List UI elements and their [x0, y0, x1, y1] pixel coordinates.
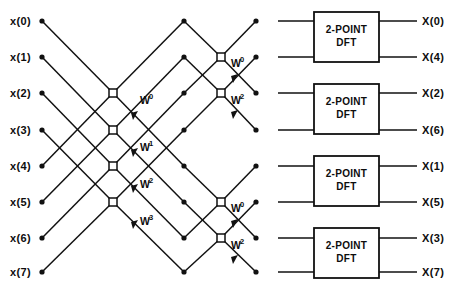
node-dot — [253, 269, 258, 274]
node-square — [109, 162, 117, 170]
node-square — [109, 198, 117, 206]
twiddle-label-exponent: 3 — [149, 213, 153, 222]
twiddle-label-exponent: 1 — [149, 139, 153, 148]
dft-box-label-line2: DFT — [336, 181, 356, 192]
node-square — [109, 126, 117, 134]
stage1-edges — [42, 21, 184, 272]
node-dot — [39, 163, 44, 168]
input-labels: x(0) x(1) x(2) x(3) x(4) x(5) x(6) x(7) — [10, 15, 31, 278]
dft-block-3[interactable]: 2-POINT DFT — [278, 156, 417, 206]
twiddle-label-exponent: 0 — [240, 200, 244, 209]
input-label-x0: x(0) — [10, 15, 31, 27]
node-dot — [39, 235, 44, 240]
fft-diagram-canvas: 2-POINT DFT 2-POINT DFT 2-POINT — [0, 0, 455, 286]
arrowhead-icon — [231, 255, 238, 264]
dft-block-1[interactable]: 2-POINT DFT — [278, 12, 417, 62]
arrowhead-icon — [231, 110, 238, 119]
node-dot — [39, 90, 44, 95]
node-square — [217, 53, 225, 61]
node-square — [217, 198, 225, 206]
node-square — [109, 89, 117, 97]
output-label-X7: X(7) — [422, 266, 444, 278]
dft-block-4[interactable]: 2-POINT DFT — [278, 228, 417, 278]
dft-box-label-line1: 2-POINT — [326, 24, 368, 35]
output-label-X6: X(6) — [422, 124, 444, 136]
twiddle-label-exponent: 2 — [240, 92, 244, 101]
output-label-X2: X(2) — [422, 87, 444, 99]
node-dot — [253, 90, 258, 95]
dft-box-label-line1: 2-POINT — [326, 96, 368, 107]
node-dot — [181, 54, 186, 59]
input-label-x2: x(2) — [10, 87, 31, 99]
dft-block-2[interactable]: 2-POINT DFT — [278, 84, 417, 134]
dft-section: 2-POINT DFT 2-POINT DFT 2-POINT — [278, 12, 417, 278]
output-label-X1: X(1) — [422, 160, 444, 172]
output-label-X4: X(4) — [422, 51, 444, 63]
twiddle-label-exponent: 2 — [149, 176, 153, 185]
node-square — [217, 89, 225, 97]
input-label-x5: x(5) — [10, 196, 31, 208]
twiddle-label-exponent: 0 — [149, 92, 153, 101]
stage2-input-nodes — [181, 18, 186, 274]
node-dot — [39, 199, 44, 204]
node-dot — [39, 54, 44, 59]
output-label-X5: X(5) — [422, 196, 444, 208]
node-dot — [39, 127, 44, 132]
node-dot — [181, 18, 186, 23]
node-dot — [39, 18, 44, 23]
node-dot — [253, 127, 258, 132]
twiddle-label-exponent: 2 — [240, 237, 244, 246]
dft-box-label-line1: 2-POINT — [326, 240, 368, 251]
node-dot — [253, 163, 258, 168]
node-square — [217, 234, 225, 242]
node-dot — [253, 199, 258, 204]
node-dot — [253, 18, 258, 23]
stage2-butterfly-nodes — [217, 53, 225, 242]
node-dot — [181, 199, 186, 204]
dft-box-label-line1: 2-POINT — [326, 168, 368, 179]
node-dot — [181, 163, 186, 168]
input-nodes — [39, 18, 44, 274]
fft-flow-graph-figure: 2-POINT DFT 2-POINT DFT 2-POINT — [0, 0, 455, 286]
node-dot — [181, 269, 186, 274]
stage2-output-nodes — [253, 18, 258, 274]
output-labels: X(0) X(4) X(2) X(6) X(1) X(5) X(3) X(7) — [422, 15, 444, 278]
input-label-x3: x(3) — [10, 124, 31, 136]
input-label-x1: x(1) — [10, 51, 31, 63]
twiddle-label-exponent: 0 — [240, 55, 244, 64]
output-label-X3: X(3) — [422, 232, 444, 244]
input-label-x6: x(6) — [10, 232, 31, 244]
stage1-butterfly-nodes — [109, 89, 117, 206]
node-dot — [181, 90, 186, 95]
node-dot — [181, 127, 186, 132]
node-dot — [253, 235, 258, 240]
input-label-x4: x(4) — [10, 160, 31, 172]
node-dot — [253, 54, 258, 59]
node-dot — [181, 235, 186, 240]
node-dot — [39, 269, 44, 274]
dft-box-label-line2: DFT — [336, 109, 356, 120]
dft-box-label-line2: DFT — [336, 37, 356, 48]
output-label-X0: X(0) — [422, 15, 444, 27]
dft-box-label-line2: DFT — [336, 253, 356, 264]
input-label-x7: x(7) — [10, 266, 31, 278]
